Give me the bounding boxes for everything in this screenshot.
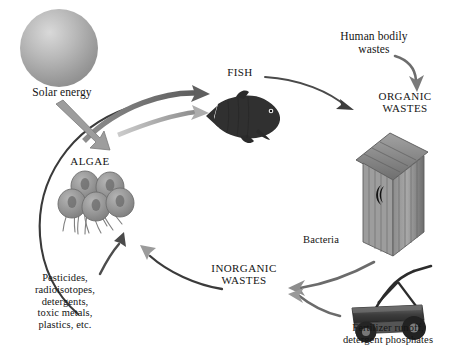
- outhouse-icon: [356, 133, 428, 256]
- arrow-pollutants-to-algae: [100, 232, 126, 274]
- label-fish: FISH: [214, 66, 266, 78]
- label-human-bodily-wastes: Human bodily wastes: [322, 30, 426, 56]
- label-organic-wastes: ORGANIC WASTES: [366, 90, 444, 115]
- label-algae: ALGAE: [55, 155, 125, 167]
- label-bacteria: Bacteria: [292, 234, 350, 246]
- algae-icon: [58, 171, 134, 234]
- arrow-fertilizer-to-inorganic: [288, 288, 340, 316]
- label-solar-energy: Solar energy: [8, 86, 116, 99]
- diagram-canvas: Solar energy ALGAE Pesticides, radioisot…: [0, 0, 451, 362]
- sun-icon: [20, 9, 98, 87]
- label-inorganic-wastes: INORGANIC WASTES: [196, 262, 292, 287]
- label-pollutants: Pesticides, radioisotopes, detergents, t…: [6, 272, 124, 331]
- label-fertilizer-runoff: Fertilizer runoff, detergent phosphates: [326, 322, 450, 346]
- arrow-fish-to-organic: [265, 77, 354, 110]
- arrow-human-wastes-to-organic: [395, 56, 424, 92]
- fish-icon: [206, 91, 280, 143]
